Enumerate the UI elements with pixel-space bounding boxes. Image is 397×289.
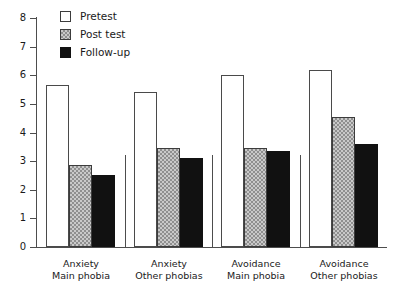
- bar-follow-up-anxiety-main-phobia: [92, 175, 115, 247]
- category-label-line1: Anxiety: [125, 258, 213, 270]
- y-axis-tick: [30, 247, 36, 248]
- y-axis-tick-label: 0: [0, 242, 26, 252]
- group-separator: [125, 155, 126, 247]
- chart-legend: Pretest Post test Follow-up: [60, 8, 130, 62]
- y-axis-tick-label: 2: [0, 185, 26, 195]
- bar-pretest-avoidance-main-phobia: [221, 75, 244, 247]
- y-axis-tick-label: 5: [0, 99, 26, 109]
- category-label-3: AvoidanceMain phobia: [212, 258, 300, 282]
- category-label-2: AnxietyOther phobias: [125, 258, 213, 282]
- y-axis-tick: [30, 18, 36, 19]
- group-separator: [212, 155, 213, 247]
- legend-swatch-pretest-icon: [60, 11, 71, 22]
- y-axis-line: [36, 17, 37, 248]
- category-label-line2: Other phobias: [300, 270, 388, 282]
- legend-item-post-test: Post test: [60, 26, 130, 42]
- category-label-line1: Avoidance: [212, 258, 300, 270]
- bar-post-test-anxiety-main-phobia: [69, 165, 92, 247]
- y-axis-tick: [30, 75, 36, 76]
- category-label-line2: Other phobias: [125, 270, 213, 282]
- y-axis-tick-label: 4: [0, 128, 26, 138]
- y-axis-tick-label: 3: [0, 156, 26, 166]
- y-axis-tick: [30, 47, 36, 48]
- legend-label-post-test: Post test: [80, 29, 125, 40]
- category-label-1: AnxietyMain phobia: [37, 258, 125, 282]
- bar-follow-up-avoidance-main-phobia: [267, 151, 290, 247]
- group-separator: [300, 155, 301, 247]
- bar-pretest-avoidance-other-phobias: [309, 70, 332, 247]
- bar-pretest-anxiety-other-phobias: [134, 92, 157, 247]
- y-axis-tick-label: 7: [0, 42, 26, 52]
- y-axis-tick: [30, 161, 36, 162]
- category-label-4: AvoidanceOther phobias: [300, 258, 388, 282]
- y-axis-tick: [30, 133, 36, 134]
- legend-label-follow-up: Follow-up: [80, 47, 130, 58]
- bar-post-test-anxiety-other-phobias: [157, 148, 180, 247]
- legend-item-pretest: Pretest: [60, 8, 130, 24]
- y-axis-tick-label: 1: [0, 213, 26, 223]
- category-label-line1: Anxiety: [37, 258, 125, 270]
- bar-follow-up-avoidance-other-phobias: [355, 144, 378, 247]
- legend-item-follow-up: Follow-up: [60, 44, 130, 60]
- x-axis-line: [36, 247, 387, 248]
- bar-post-test-avoidance-other-phobias: [332, 117, 355, 247]
- legend-label-pretest: Pretest: [80, 11, 117, 22]
- bar-chart-figure: Pretest Post test Follow-up 012345678 An…: [0, 0, 397, 289]
- y-axis-tick: [30, 190, 36, 191]
- legend-swatch-post-test-icon: [60, 29, 71, 40]
- bar-post-test-avoidance-main-phobia: [244, 148, 267, 247]
- bar-pretest-anxiety-main-phobia: [46, 85, 69, 247]
- y-axis-tick-label: 8: [0, 13, 26, 23]
- y-axis-tick: [30, 104, 36, 105]
- y-axis-tick-label: 6: [0, 70, 26, 80]
- y-axis-tick: [30, 218, 36, 219]
- category-label-line2: Main phobia: [37, 270, 125, 282]
- bar-follow-up-anxiety-other-phobias: [180, 158, 203, 247]
- category-label-line1: Avoidance: [300, 258, 388, 270]
- category-label-line2: Main phobia: [212, 270, 300, 282]
- legend-swatch-follow-up-icon: [60, 47, 71, 58]
